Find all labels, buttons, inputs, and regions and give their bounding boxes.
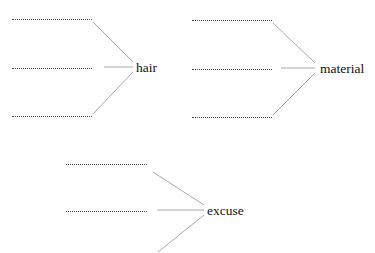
blank-line-2[interactable]: [192, 69, 272, 70]
center-word: material: [320, 62, 364, 76]
blank-line-1[interactable]: [12, 19, 92, 20]
blank-line-3[interactable]: [12, 116, 92, 117]
center-word: hair: [136, 61, 157, 75]
blank-line-3[interactable]: [192, 117, 272, 118]
blank-line-1[interactable]: [192, 20, 272, 21]
center-word: excuse: [207, 204, 244, 218]
connector-lines: [0, 0, 375, 253]
blank-line-2[interactable]: [12, 68, 92, 69]
blank-line-1[interactable]: [66, 164, 147, 165]
blank-line-2[interactable]: [66, 211, 147, 212]
